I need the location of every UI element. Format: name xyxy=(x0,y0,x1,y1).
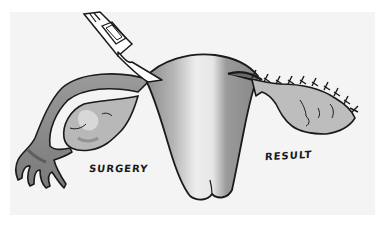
left-ovary xyxy=(64,96,138,151)
surgery-label: SURGERY xyxy=(88,163,149,174)
uterus-illustration xyxy=(0,0,385,227)
